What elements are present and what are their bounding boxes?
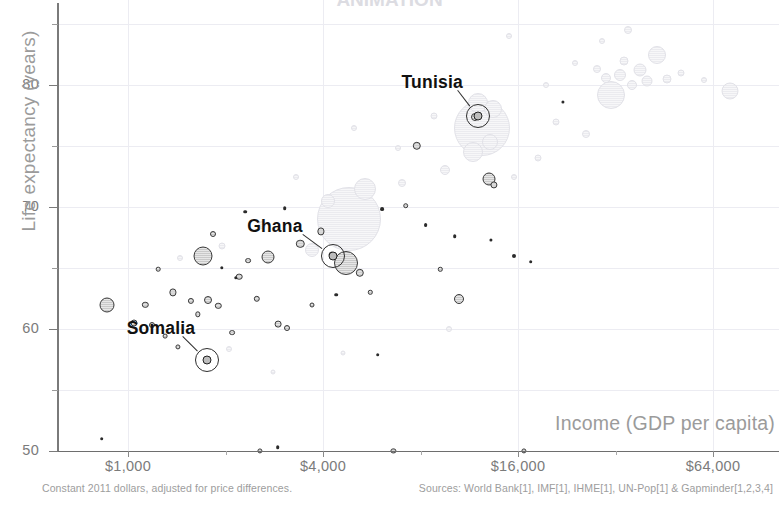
bubble-country[interactable] bbox=[156, 267, 161, 272]
y-axis-tick-label: 60 bbox=[5, 320, 39, 336]
bubble-country[interactable] bbox=[403, 203, 409, 209]
x-axis-title: Income (GDP per capita) bbox=[555, 412, 775, 435]
bubble-country[interactable] bbox=[195, 312, 200, 317]
bubble-background[interactable] bbox=[440, 165, 450, 175]
bubble-country[interactable] bbox=[187, 298, 193, 304]
bubble-country[interactable] bbox=[204, 296, 212, 304]
bubble-background[interactable] bbox=[543, 82, 549, 88]
y-axis-line bbox=[57, 3, 59, 452]
bubble-country[interactable] bbox=[284, 325, 290, 331]
bubble-country[interactable] bbox=[561, 100, 564, 103]
bubble-background[interactable] bbox=[446, 326, 452, 332]
bubble-background[interactable] bbox=[340, 351, 345, 356]
bubble-background[interactable] bbox=[641, 76, 652, 87]
bubble-background[interactable] bbox=[633, 64, 646, 77]
y-axis-minor-tick bbox=[52, 24, 58, 25]
bubble-country[interactable] bbox=[512, 254, 516, 258]
bubble-background[interactable] bbox=[398, 179, 406, 187]
bubble-background[interactable] bbox=[553, 118, 560, 125]
bubble-background[interactable] bbox=[601, 73, 611, 83]
bubble-country[interactable] bbox=[261, 251, 274, 264]
bubble-country[interactable] bbox=[529, 260, 533, 264]
bubble-country[interactable] bbox=[380, 208, 384, 212]
x-axis-tick-label: $1,000 bbox=[105, 458, 151, 474]
bubble-background[interactable] bbox=[226, 346, 232, 352]
bubble-country[interactable] bbox=[454, 294, 464, 304]
x-axis-tick bbox=[713, 451, 714, 457]
y-axis-minor-tick bbox=[52, 146, 58, 147]
bubble-background[interactable] bbox=[506, 33, 512, 39]
annotation-label-ghana: Ghana bbox=[247, 216, 302, 237]
bubble-background[interactable] bbox=[599, 38, 605, 44]
bubble-background[interactable] bbox=[678, 69, 685, 76]
bubble-country[interactable] bbox=[376, 353, 380, 357]
bubble-background[interactable] bbox=[597, 81, 625, 109]
bubble-country[interactable] bbox=[491, 181, 498, 188]
bubble-country[interactable] bbox=[254, 295, 260, 301]
bubble-background[interactable] bbox=[463, 142, 483, 162]
bubble-background[interactable] bbox=[582, 130, 590, 138]
bubble-background[interactable] bbox=[293, 174, 299, 180]
bubble-background[interactable] bbox=[354, 178, 376, 200]
bubble-country[interactable] bbox=[424, 223, 428, 227]
bubble-country[interactable] bbox=[142, 301, 148, 307]
bubble-background[interactable] bbox=[614, 69, 626, 81]
bubble-country[interactable] bbox=[335, 293, 339, 297]
plot-area bbox=[57, 0, 779, 452]
bubble-background[interactable] bbox=[593, 65, 601, 73]
bubble-background[interactable] bbox=[701, 77, 707, 83]
bubble-background[interactable] bbox=[430, 112, 437, 119]
annotation-label-somalia: Somalia bbox=[127, 318, 196, 339]
bubble-background[interactable] bbox=[721, 83, 738, 100]
bubble-country[interactable] bbox=[453, 234, 457, 238]
bubble-background[interactable] bbox=[624, 26, 632, 34]
footnote-left-source-note: Constant 2011 dollars, adjusted for pric… bbox=[42, 482, 292, 494]
gridline-horizontal bbox=[57, 207, 779, 208]
bubble-country[interactable] bbox=[296, 239, 304, 247]
bubble-country[interactable] bbox=[356, 269, 364, 277]
bubble-background[interactable] bbox=[351, 125, 357, 131]
bubble-country[interactable] bbox=[276, 446, 280, 450]
bubble-background[interactable] bbox=[321, 194, 335, 208]
annotation-marker[interactable] bbox=[473, 111, 482, 120]
bubble-background[interactable] bbox=[395, 145, 401, 151]
bubble-country[interactable] bbox=[193, 246, 212, 265]
bubble-background[interactable] bbox=[572, 60, 578, 66]
bubble-country[interactable] bbox=[413, 142, 421, 150]
bubble-background[interactable] bbox=[218, 243, 225, 250]
bubble-country[interactable] bbox=[229, 330, 235, 336]
bubble-country[interactable] bbox=[489, 238, 492, 241]
bubble-country[interactable] bbox=[99, 297, 114, 312]
bubble-background[interactable] bbox=[620, 56, 629, 65]
x-axis-minor-tick bbox=[421, 451, 422, 455]
bubble-country[interactable] bbox=[283, 206, 287, 210]
bubble-background[interactable] bbox=[482, 134, 498, 150]
bubble-country[interactable] bbox=[100, 437, 104, 441]
bubble-background[interactable] bbox=[511, 174, 517, 180]
bubble-background[interactable] bbox=[627, 80, 637, 90]
chart-root: ANIMATION 50607080$1,000$4,000$16,000$64… bbox=[0, 0, 779, 513]
bubble-background[interactable] bbox=[270, 369, 275, 374]
bubble-background[interactable] bbox=[662, 74, 671, 83]
gridline-vertical bbox=[518, 0, 519, 452]
bubble-country[interactable] bbox=[176, 345, 181, 350]
y-axis-tick-label: 50 bbox=[5, 442, 39, 458]
bubble-country[interactable] bbox=[170, 289, 177, 296]
bubble-background[interactable] bbox=[177, 255, 183, 261]
annotation-label-tunisia: Tunisia bbox=[402, 72, 463, 93]
bubble-country[interactable] bbox=[215, 303, 221, 309]
bubble-background[interactable] bbox=[648, 46, 666, 64]
bubble-country[interactable] bbox=[274, 321, 281, 328]
bubble-country[interactable] bbox=[368, 290, 372, 294]
bubble-country[interactable] bbox=[220, 266, 223, 269]
y-axis-minor-tick bbox=[52, 268, 58, 269]
x-axis-line bbox=[57, 451, 779, 452]
annotation-marker[interactable] bbox=[329, 251, 338, 260]
bubble-country[interactable] bbox=[210, 231, 216, 237]
annotation-marker[interactable] bbox=[202, 355, 211, 364]
bubble-country[interactable] bbox=[438, 267, 442, 271]
bubble-country[interactable] bbox=[243, 210, 247, 214]
bubble-background[interactable] bbox=[535, 155, 542, 162]
bubble-country[interactable] bbox=[245, 258, 251, 264]
bubble-country[interactable] bbox=[310, 302, 315, 307]
